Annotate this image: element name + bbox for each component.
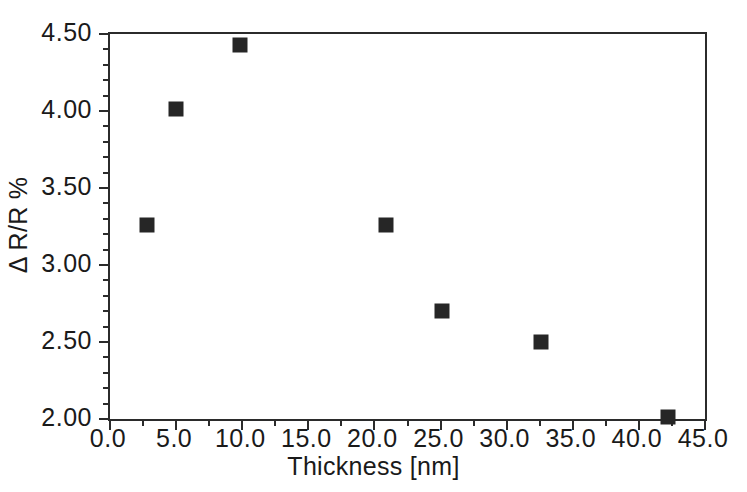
y-tick-label: 4.00 [0,95,92,124]
y-tick-minor [103,141,110,143]
y-tick-major [99,110,110,112]
y-tick-minor [103,249,110,251]
y-tick-minor [103,403,110,405]
y-tick-minor [103,64,110,66]
y-tick-minor [103,156,110,158]
x-axis-title: Thickness [nm] [0,452,747,481]
data-point-marker [534,335,549,350]
x-tick-minor [340,419,342,426]
y-tick-minor [103,95,110,97]
x-tick-minor [208,419,210,426]
y-tick-minor [103,79,110,81]
x-tick-label: 0.0 [90,424,126,453]
y-tick-minor [103,310,110,312]
y-tick-minor [103,326,110,328]
data-point-marker [379,217,394,232]
y-tick-minor [103,372,110,374]
y-tick-minor [103,125,110,127]
x-tick-label: 45.0 [678,424,729,453]
data-point-marker [140,217,155,232]
x-tick-label: 25.0 [413,424,464,453]
x-tick-minor [142,419,144,426]
y-tick-minor [103,279,110,281]
y-tick-label: 4.50 [0,18,92,47]
data-series-layer [110,34,705,419]
y-tick-minor [103,295,110,297]
y-tick-label: 3.00 [0,249,92,278]
y-tick-label: 2.00 [0,403,92,432]
y-tick-minor [103,172,110,174]
data-point-marker [434,304,449,319]
scatter-plot-figure: Δ R/R % 2.002.503.003.504.004.50 0.05.01… [0,0,747,492]
data-point-marker [232,37,247,52]
y-tick-minor [103,48,110,50]
plot-area [108,32,707,421]
x-tick-minor [539,419,541,426]
y-tick-major [99,33,110,35]
x-tick-label: 10.0 [215,424,266,453]
y-tick-minor [103,356,110,358]
y-tick-label: 3.50 [0,172,92,201]
x-tick-label: 15.0 [281,424,332,453]
y-tick-label: 2.50 [0,326,92,355]
x-tick-label: 20.0 [347,424,398,453]
y-tick-minor [103,387,110,389]
data-point-marker [169,102,184,117]
y-tick-minor [103,218,110,220]
data-point-marker [660,410,675,425]
x-tick-label: 35.0 [545,424,596,453]
y-tick-minor [103,202,110,204]
y-tick-major [99,264,110,266]
y-tick-major [99,187,110,189]
x-tick-label: 40.0 [612,424,663,453]
x-tick-minor [473,419,475,426]
y-tick-major [99,341,110,343]
y-tick-minor [103,233,110,235]
x-tick-minor [407,419,409,426]
x-tick-minor [605,419,607,426]
x-tick-minor [274,419,276,426]
x-tick-label: 30.0 [479,424,530,453]
x-tick-label: 5.0 [156,424,192,453]
